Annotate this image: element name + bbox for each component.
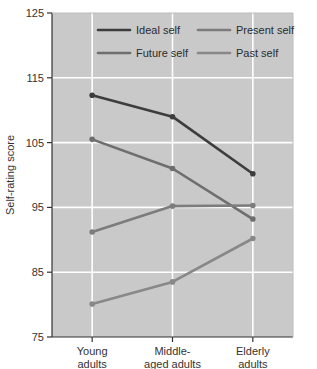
- data-point: [89, 137, 95, 143]
- x-axis-category-label: adults: [77, 358, 107, 369]
- y-axis-tick-label: 85: [32, 266, 44, 278]
- y-axis-tick-label: 115: [26, 72, 44, 84]
- x-axis-category-label: Middle-: [154, 345, 190, 357]
- x-axis-category-label: Young: [77, 345, 108, 357]
- data-point: [250, 171, 256, 177]
- data-point: [170, 166, 176, 172]
- data-point: [170, 203, 176, 209]
- data-point: [250, 203, 256, 209]
- y-axis-tick-label: 95: [32, 201, 44, 213]
- data-point: [89, 301, 95, 307]
- legend-label: Ideal self: [136, 24, 181, 36]
- legend-label: Future self: [136, 47, 189, 59]
- y-axis-tick-label: 75: [32, 331, 44, 343]
- legend-label: Present self: [236, 24, 295, 36]
- data-point: [89, 229, 95, 235]
- x-axis-category-label: adults: [238, 358, 268, 369]
- data-point: [250, 236, 256, 242]
- y-axis-title: Self-rating score: [4, 135, 16, 215]
- data-point: [89, 92, 95, 98]
- x-axis-category-label: Elderly: [236, 345, 270, 357]
- y-axis-tick-label: 125: [26, 7, 44, 19]
- line-chart: 125115105958575 YoungadultsMiddle-aged a…: [0, 0, 317, 369]
- data-point: [170, 114, 176, 120]
- data-point: [170, 279, 176, 285]
- legend-label: Past self: [236, 47, 279, 59]
- data-point: [250, 216, 256, 222]
- y-axis-tick-label: 105: [26, 137, 44, 149]
- chart-container: 125115105958575 YoungadultsMiddle-aged a…: [0, 0, 317, 369]
- x-axis-category-label: aged adults: [144, 358, 201, 369]
